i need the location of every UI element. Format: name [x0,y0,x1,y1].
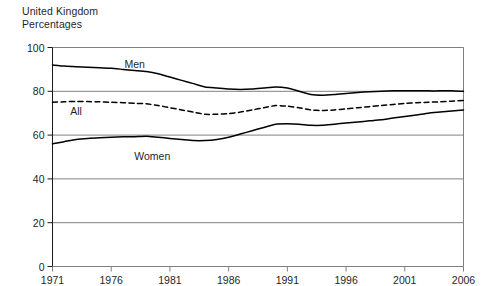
series-line-all [53,101,464,115]
y-tick-marks [48,48,53,267]
x-tick-label-1991: 1991 [276,274,300,286]
y-tick-label-80: 80 [33,85,45,97]
gridlines-group [53,48,464,223]
x-tick-label-1981: 1981 [158,274,182,286]
y-tick-label-100: 100 [27,42,45,54]
series-label-men: Men [124,58,145,70]
x-tick-label-1971: 1971 [41,274,65,286]
x-tick-label-2001: 2001 [393,274,417,286]
y-tick-label-20: 20 [33,217,45,229]
x-tick-label-1986: 1986 [217,274,241,286]
chart-figure: United Kingdom Percentages 020406080100 … [0,0,496,286]
y-tick-labels: 020406080100 [27,42,45,273]
x-tick-label-1996: 1996 [334,274,358,286]
series-line-men [53,65,464,95]
y-tick-label-40: 40 [33,173,45,185]
x-tick-marks [53,267,464,272]
series-line-women [53,110,464,144]
y-tick-label-60: 60 [33,129,45,141]
series-label-women: Women [134,150,170,162]
axes-group [53,48,464,267]
series-label-all: All [70,105,82,117]
line-chart-plot: 020406080100 197119761981198619911996200… [0,0,496,286]
series-lines-group [53,65,464,144]
x-tick-label-2006: 2006 [452,274,476,286]
y-tick-label-0: 0 [39,261,45,273]
x-tick-labels: 19711976198119861991199620012006 [41,274,476,286]
x-tick-label-1976: 1976 [100,274,124,286]
